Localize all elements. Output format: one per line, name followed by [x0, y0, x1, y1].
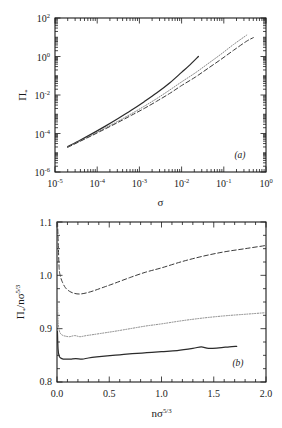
panel-a-svg: 102 100 10-2 10-4 10-6 10-5 10-4 10-3 10… [0, 0, 282, 214]
panel-a-plot-frame [55, 18, 266, 172]
panel-b-svg: 1.1 1.0 0.9 0.8 0.0 0.5 1.0 1.5 2.0 nσ5/… [0, 214, 282, 428]
x-ticklabel-2.0: 2.0 [260, 388, 273, 399]
y-ticklabel-1.1: 1.1 [40, 217, 53, 228]
curve-dotted [57, 299, 266, 336]
x-ticklabel-1.5: 1.5 [208, 388, 221, 399]
panel-a-y-ticklabels: 102 100 10-2 10-4 10-6 [35, 12, 51, 178]
panel-a-curves [68, 35, 254, 147]
y-ticklabel-1e-4: 10-4 [35, 128, 51, 140]
panel-b-tag: (b) [232, 358, 243, 369]
y-ticklabel-0.9: 0.9 [40, 323, 53, 334]
panel-a-ticks [55, 18, 266, 172]
curve-dotted [68, 35, 247, 147]
curve-dashed [58, 222, 266, 294]
y-ticklabel-1.0: 1.0 [40, 270, 53, 281]
panel-b-xaxis-label: nσ5/3 [151, 407, 172, 419]
curve-dashed [68, 38, 254, 148]
panel-a-xaxis-label: σ [158, 196, 164, 208]
panel-b-y-ticklabels: 1.1 1.0 0.9 0.8 [40, 217, 53, 388]
y-ticklabel-1e0: 100 [37, 51, 50, 63]
x-ticklabel-1e-4: 10-4 [89, 177, 105, 189]
figure-container: 102 100 10-2 10-4 10-6 10-5 10-4 10-3 10… [0, 0, 282, 428]
y-ticklabel-1e2: 102 [37, 12, 50, 24]
panel-a-x-ticklabels: 10-5 10-4 10-3 10-2 10-1 100 [47, 177, 272, 189]
y-ticklabel-1e-2: 10-2 [35, 89, 50, 101]
x-ticklabel-1e-5: 10-5 [47, 177, 62, 189]
curve-solid [57, 331, 236, 359]
panel-b-x-ticklabels: 0.0 0.5 1.0 1.5 2.0 [51, 388, 273, 399]
y-ticklabel-0.8: 0.8 [40, 376, 53, 387]
panel-b-yaxis-label: Π*/nσ5/3 [14, 284, 28, 319]
x-ticklabel-0.5: 0.5 [103, 388, 116, 399]
x-ticklabel-1e-3: 10-3 [132, 177, 147, 189]
x-ticklabel-1e0: 100 [259, 177, 272, 189]
x-ticklabel-1e-1: 10-1 [216, 177, 231, 189]
panel-a: 102 100 10-2 10-4 10-6 10-5 10-4 10-3 10… [0, 0, 282, 214]
panel-a-yaxis-label: Π* [16, 89, 30, 101]
x-ticklabel-1e-2: 10-2 [174, 177, 189, 189]
panel-a-tag: (a) [234, 150, 245, 161]
curve-solid [68, 57, 199, 147]
panel-b: 1.1 1.0 0.9 0.8 0.0 0.5 1.0 1.5 2.0 nσ5/… [0, 214, 282, 428]
x-ticklabel-1.0: 1.0 [155, 388, 168, 399]
x-ticklabel-0.0: 0.0 [51, 388, 64, 399]
y-ticklabel-1e-6: 10-6 [35, 166, 51, 178]
panel-b-curves [57, 222, 266, 359]
